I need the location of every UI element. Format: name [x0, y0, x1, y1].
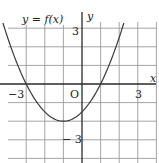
- function-label: y = f(x): [21, 13, 63, 26]
- function-graph: y = f(x) y x O −3 3 3 − 3: [0, 0, 159, 163]
- y-tick-3: 3: [72, 25, 79, 38]
- y-tick-neg3: − 3: [62, 133, 82, 146]
- x-axis-label: x: [150, 72, 157, 85]
- x-tick-3: 3: [135, 88, 142, 101]
- y-axis-label: y: [86, 10, 94, 23]
- x-tick-neg3: −3: [8, 88, 24, 101]
- origin-label: O: [70, 88, 79, 101]
